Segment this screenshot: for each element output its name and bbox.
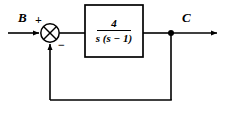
input-signal-label: B <box>18 11 27 24</box>
summing-junction-minus-sign: − <box>58 39 65 51</box>
diagram-canvas <box>0 0 226 114</box>
summing-junction-plus-sign: + <box>35 14 42 26</box>
transfer-function-block-outline <box>85 5 143 57</box>
output-signal-label: C <box>182 11 191 24</box>
block-diagram: B C + − 4 s (s − 1) <box>0 0 226 114</box>
